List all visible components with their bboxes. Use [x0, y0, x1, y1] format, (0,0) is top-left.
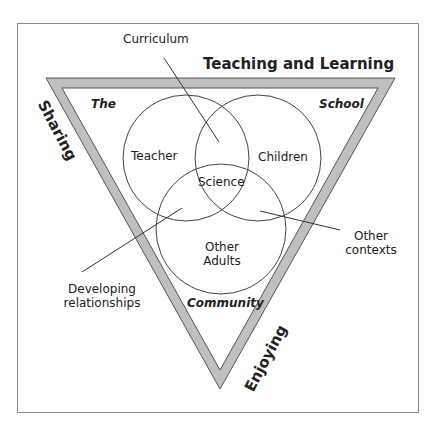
developing-relationships-line2: relationships: [60, 297, 144, 311]
other-contexts-line2: contexts: [343, 244, 399, 258]
other-adults-line1: Other: [200, 241, 244, 255]
diagram-canvas: Curriculum Teaching and Learning The Sch…: [0, 0, 438, 427]
developing-relationships-label: Developing relationships: [60, 283, 144, 311]
corner-label-the: The: [91, 98, 116, 112]
children-label: Children: [258, 151, 308, 165]
developing-relationships-line1: Developing: [60, 283, 144, 297]
science-label: Science: [198, 176, 245, 190]
other-adults-label: Other Adults: [200, 241, 244, 269]
curriculum-label: Curriculum: [123, 33, 189, 47]
corner-label-school: School: [319, 98, 364, 112]
other-contexts-line1: Other: [343, 230, 399, 244]
other-adults-line2: Adults: [200, 255, 244, 269]
corner-label-community: Community: [187, 297, 264, 311]
other-contexts-label: Other contexts: [343, 230, 399, 258]
teaching-and-learning-label: Teaching and Learning: [203, 56, 394, 73]
teacher-label: Teacher: [131, 150, 178, 164]
